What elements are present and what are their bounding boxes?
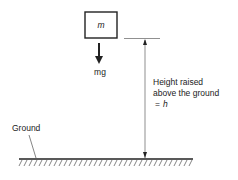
svg-text:=: =	[155, 99, 160, 109]
height-dimension	[143, 39, 147, 158]
svg-text:h: h	[163, 99, 168, 109]
svg-text:above the ground: above the ground	[153, 88, 219, 98]
svg-text:Height raised: Height raised	[153, 77, 203, 87]
weight-arrow	[95, 43, 103, 64]
height-label: Height raised above the ground = h	[153, 77, 219, 109]
ground-hatching	[19, 160, 192, 166]
mass-block: m	[85, 12, 117, 38]
potential-energy-diagram: m mg Height raised above the ground = h …	[0, 0, 238, 180]
ground-label: Ground	[12, 123, 41, 133]
mass-label: m	[97, 20, 104, 30]
ground-leader-line	[29, 135, 36, 158]
force-label: mg	[94, 67, 106, 77]
